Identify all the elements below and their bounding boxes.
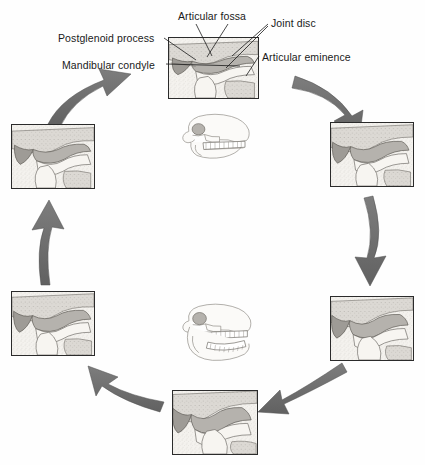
arrow-bottom-to-left-lower [88,366,164,412]
panel-bottom-center [172,390,258,455]
arrow-left-up [32,200,64,285]
tmj-stage-2-illustration [331,123,413,186]
skull-closed-illustration [176,112,254,160]
panel-left-upper [11,124,95,189]
figure-canvas: Articular fossa Joint disc Postglenoid p… [0,0,425,465]
label-mandibular-condyle: Mandibular condyle [62,60,155,71]
arrow-right-lower-to-bottom [258,363,347,414]
panel-left-lower [11,291,95,356]
panel-right-upper [330,122,414,187]
panel-right-lower [330,296,414,361]
tmj-stage-6-illustration [12,125,94,188]
arrow-right-down [355,196,386,286]
label-postglenoid-process: Postglenoid process [58,33,154,44]
tmj-stage-4-illustration [173,391,257,454]
panel-top-center [168,37,259,99]
label-articular-fossa: Articular fossa [178,11,246,22]
label-articular-eminence: Articular eminence [262,52,351,63]
arrow-top-left-to-top [48,69,131,127]
label-joint-disc: Joint disc [271,18,316,29]
skull-open-illustration [176,302,258,364]
tmj-stage-1-illustration [169,38,258,98]
tmj-stage-5-illustration [12,292,94,355]
tmj-stage-3-illustration [331,297,413,360]
